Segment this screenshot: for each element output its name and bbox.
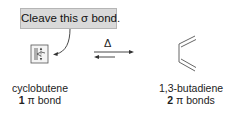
cyclobutene-structure (31, 45, 48, 63)
curved-arrow-icon (53, 29, 70, 56)
butadiene-structure (179, 36, 196, 71)
equilibrium-arrow-icon (94, 50, 134, 59)
reactant-name: cyclobutene (10, 82, 70, 94)
product-pi-count: 2 π bonds (153, 94, 229, 106)
product-name: 1,3-butadiene (153, 82, 229, 94)
heat-condition-label: Δ (104, 37, 111, 49)
reactant-pi-count: 1 π bond (10, 94, 70, 106)
